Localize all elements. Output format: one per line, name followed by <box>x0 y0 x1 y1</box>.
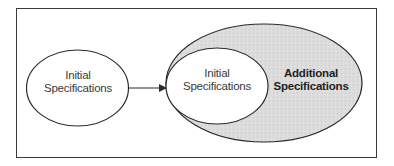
inner-node-line2: Specifications <box>166 80 268 93</box>
inner-node-line1: Initial <box>166 67 268 80</box>
outer-node-line1: Additional <box>268 67 354 80</box>
outer-node-line2: Specifications <box>268 80 354 93</box>
left-node-label: Initial Specifications <box>27 69 129 95</box>
outer-node-label: Additional Specifications <box>268 67 354 93</box>
inner-node-label: Initial Specifications <box>166 67 268 93</box>
left-node-line2: Specifications <box>27 82 129 95</box>
left-node-line1: Initial <box>27 69 129 82</box>
